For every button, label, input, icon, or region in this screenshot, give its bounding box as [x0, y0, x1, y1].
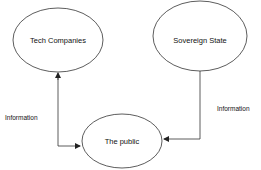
edge-public-tech[interactable]: Information [5, 73, 80, 146]
edge-label: Information [5, 114, 38, 121]
diagram-canvas: Tech Companies Sovereign State The publi… [0, 0, 261, 170]
node-sovereign-state[interactable]: Sovereign State [153, 1, 247, 71]
node-label: Sovereign State [173, 36, 226, 45]
edge-state-public[interactable]: Information [164, 71, 250, 139]
edge-label: Information [217, 105, 250, 112]
node-the-public[interactable]: The public [82, 114, 162, 168]
node-label: The public [105, 137, 140, 146]
node-label: Tech Companies [30, 36, 86, 45]
node-tech-companies[interactable]: Tech Companies [13, 8, 103, 72]
